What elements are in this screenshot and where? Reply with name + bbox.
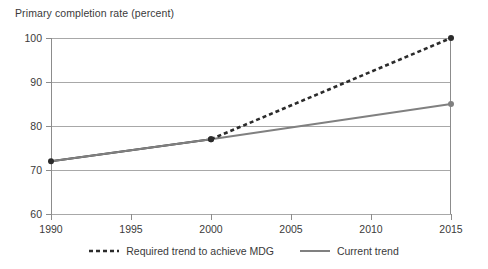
x-tick-label-1995: 1995 — [119, 223, 142, 235]
x-tick-1990 — [51, 214, 52, 220]
x-tick-2010 — [371, 214, 372, 220]
chart-legend: Required trend to achieve MDGCurrent tre… — [0, 245, 488, 257]
legend-entry-0[interactable]: Required trend to achieve MDG — [89, 245, 274, 257]
x-tick-label-2015: 2015 — [439, 223, 462, 235]
x-tick-label-2005: 2005 — [279, 223, 302, 235]
y-tick-label-90: 90 — [30, 76, 42, 88]
x-tick-label-1990: 1990 — [39, 223, 62, 235]
legend-entry-1[interactable]: Current trend — [300, 245, 399, 257]
legend-label-1: Current trend — [337, 245, 399, 257]
data-point-required-2015 — [448, 35, 454, 41]
data-point-current-1990 — [48, 158, 54, 164]
x-tick-2015 — [451, 214, 452, 220]
x-tick-label-2010: 2010 — [359, 223, 382, 235]
legend-swatch-solid — [300, 246, 330, 256]
y-tick-label-60: 60 — [30, 208, 42, 220]
x-tick-label-2000: 2000 — [199, 223, 222, 235]
required-trend-line — [211, 38, 451, 139]
data-point-current-2015 — [448, 101, 454, 107]
current-trend-line — [51, 104, 451, 161]
y-tick-label-100: 100 — [24, 32, 42, 44]
series-layer — [51, 38, 451, 214]
plot-area: 60708090100 199019952000200520102015 — [51, 38, 451, 214]
y-tick-label-70: 70 — [30, 164, 42, 176]
chart-figure: Primary completion rate (percent) 607080… — [0, 0, 488, 269]
legend-label-0: Required trend to achieve MDG — [126, 245, 274, 257]
legend-swatch-dashed — [89, 246, 119, 256]
data-point-required-2000 — [208, 136, 214, 142]
x-tick-2005 — [291, 214, 292, 220]
chart-title: Primary completion rate (percent) — [15, 7, 174, 19]
gridline-y-60 — [51, 214, 451, 215]
x-tick-2000 — [211, 214, 212, 220]
x-tick-1995 — [131, 214, 132, 220]
y-tick-label-80: 80 — [30, 120, 42, 132]
